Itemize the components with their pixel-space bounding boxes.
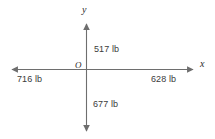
force-label-right: 628 lb (151, 74, 176, 84)
y-axis-label: y (82, 4, 86, 15)
origin-label: O (75, 60, 82, 70)
force-diagram-figure: y x O 517 lb 677 lb 716 lb 628 lb (0, 0, 215, 139)
force-label-down: 677 lb (93, 99, 118, 109)
x-axis-label: x (200, 58, 204, 69)
axes-graphic (0, 0, 215, 139)
force-label-up: 517 lb (94, 44, 119, 54)
force-label-left: 716 lb (17, 74, 42, 84)
